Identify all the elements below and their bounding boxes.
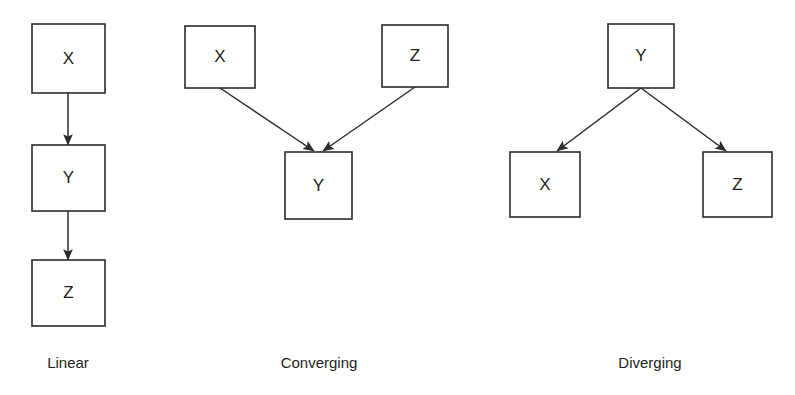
node-x[interactable]: X: [510, 152, 580, 217]
panel-converging: XZYConverging: [185, 25, 448, 371]
node-y[interactable]: Y: [32, 145, 105, 211]
edge-y-to-z: [641, 88, 726, 151]
diagram-canvas: XYZLinearXZYConvergingYXZDiverging: [0, 0, 795, 395]
node-label-y: Y: [635, 46, 646, 65]
node-x[interactable]: X: [32, 24, 105, 93]
node-x[interactable]: X: [185, 26, 255, 88]
node-label-y: Y: [63, 168, 74, 187]
panel-diverging: YXZDiverging: [510, 24, 772, 371]
node-y[interactable]: Y: [608, 24, 674, 88]
panel-caption-converging: Converging: [281, 354, 358, 371]
panel-caption-diverging: Diverging: [618, 354, 681, 371]
node-label-z: Z: [732, 175, 742, 194]
node-z[interactable]: Z: [382, 25, 448, 87]
node-y[interactable]: Y: [285, 152, 352, 219]
node-label-y: Y: [313, 176, 324, 195]
edge-x-to-y: [220, 88, 314, 151]
node-z[interactable]: Z: [32, 260, 105, 326]
edge-z-to-y: [323, 87, 415, 151]
panel-linear: XYZLinear: [32, 24, 105, 371]
causal-structures-figure: XYZLinearXZYConvergingYXZDiverging: [0, 0, 795, 395]
node-label-x: X: [539, 175, 550, 194]
node-z[interactable]: Z: [703, 152, 772, 217]
node-label-z: Z: [410, 46, 420, 65]
node-label-x: X: [214, 47, 225, 66]
edge-y-to-x: [557, 88, 641, 151]
panel-caption-linear: Linear: [47, 354, 89, 371]
node-label-z: Z: [63, 283, 73, 302]
node-label-x: X: [63, 49, 74, 68]
